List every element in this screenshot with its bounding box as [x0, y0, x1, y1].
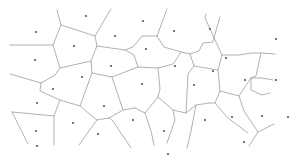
- seed-point: [132, 119, 134, 121]
- seed-point: [204, 119, 206, 121]
- seed-point: [174, 65, 176, 67]
- seed-point: [193, 84, 195, 86]
- seed-point: [142, 20, 144, 22]
- seed-point: [145, 48, 147, 50]
- seed-point: [163, 130, 165, 132]
- seed-point: [35, 31, 37, 33]
- seed-point: [110, 65, 112, 67]
- seed-point: [35, 130, 37, 132]
- diagram-background: [0, 0, 293, 159]
- seed-point: [209, 28, 211, 30]
- seed-point: [36, 102, 38, 104]
- seed-point: [141, 83, 143, 85]
- seed-point: [36, 145, 38, 147]
- seed-point: [261, 115, 263, 117]
- seed-point: [97, 133, 99, 135]
- voronoi-diagram: [0, 0, 293, 159]
- seed-point: [275, 38, 277, 40]
- seed-point: [231, 116, 233, 118]
- seed-point: [72, 122, 74, 124]
- seed-point: [73, 45, 75, 47]
- seed-point: [173, 30, 175, 32]
- seed-point: [212, 70, 214, 72]
- seed-point: [114, 35, 116, 37]
- seed-point: [244, 79, 246, 81]
- seed-point: [52, 88, 54, 90]
- seed-point: [275, 79, 277, 81]
- seed-point: [81, 76, 83, 78]
- seed-point: [103, 105, 105, 107]
- seed-point: [225, 57, 227, 59]
- seed-point: [287, 116, 289, 118]
- seed-point: [85, 15, 87, 17]
- seed-point: [34, 59, 36, 61]
- seed-point: [243, 141, 245, 143]
- seed-point: [167, 153, 169, 155]
